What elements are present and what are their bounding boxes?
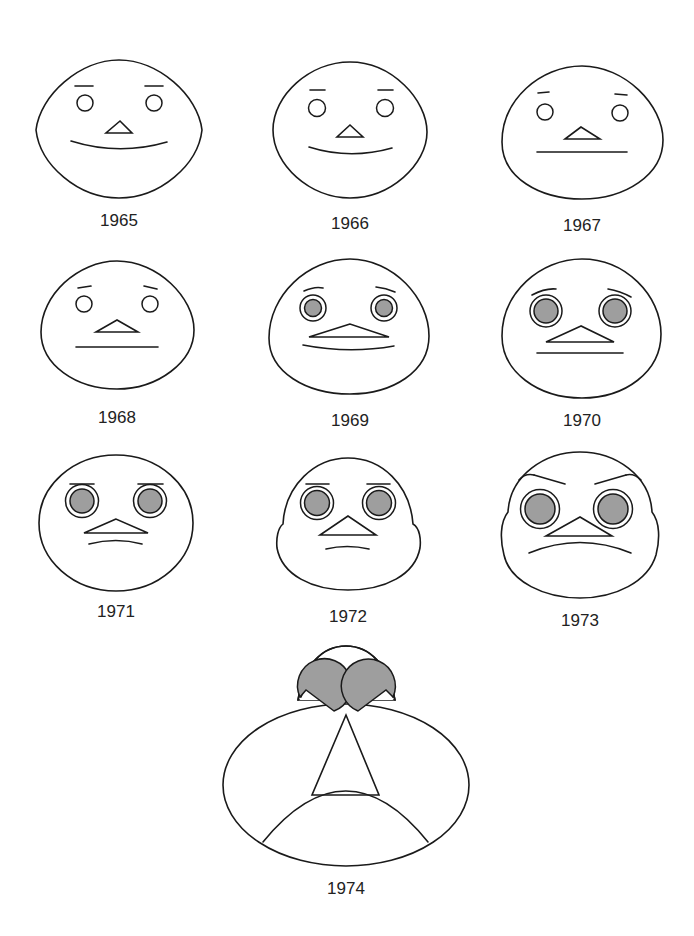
right-pupil [376,300,393,317]
face-label: 1970 [563,411,601,430]
chernoff-faces-diagram: 1965 1966 1967 1968 [0,0,694,936]
face-label: 1967 [563,216,601,235]
face-label: 1969 [331,411,369,430]
face-label: 1966 [331,214,369,233]
face-1971: 1971 [39,455,193,621]
face-1969: 1969 [269,259,429,430]
left-eye [309,100,326,117]
right-pupil [138,489,162,513]
left-eye [77,95,93,111]
face-1974: 1974 [223,646,469,898]
right-pupil [603,299,627,323]
left-pupil [525,494,555,524]
face-1970: 1970 [502,259,661,430]
face-label: 1972 [329,607,367,626]
right-pupil [367,491,392,516]
face-1968: 1968 [41,261,194,427]
right-eyebrow [615,94,627,95]
face-1967: 1967 [502,66,663,235]
right-eye [612,105,628,121]
face-label: 1965 [100,211,138,230]
right-eye [377,100,394,117]
left-pupil [70,489,94,513]
face-label: 1973 [561,611,599,630]
face-1972: 1972 [277,458,421,626]
face-1965: 1965 [36,60,202,230]
right-eye [146,95,162,111]
left-eyebrow [538,92,549,93]
left-eye [537,104,553,120]
face-1973: 1973 [501,452,658,630]
face-1966: 1966 [273,62,427,233]
left-pupil [305,300,322,317]
left-eye [76,296,92,312]
face-label: 1971 [97,602,135,621]
left-pupil [305,491,330,516]
left-pupil [534,299,558,323]
face-label: 1974 [327,879,365,898]
face-label: 1968 [98,408,136,427]
right-eye [142,296,158,312]
right-eye [341,659,395,711]
right-pupil [598,494,628,524]
